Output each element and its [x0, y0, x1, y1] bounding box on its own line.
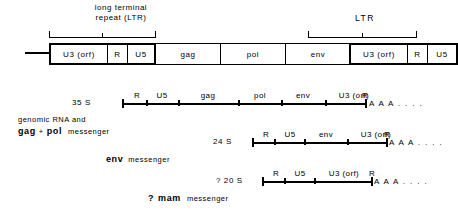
right-ltr-bracket-caption: LTR	[305, 13, 425, 23]
provirus-segment-label: U5	[436, 50, 447, 59]
transcript-35s-segment-gag: gag	[180, 91, 236, 101]
provirus-segment-env: env	[286, 43, 350, 65]
transcript-24s-polya-tail: A A A . . . .	[389, 138, 443, 147]
transcript-24s-description: env messenger	[106, 154, 170, 165]
gene-name-pol: pol	[47, 126, 62, 136]
provirus-segment-label: R	[414, 50, 420, 59]
transcript-35s-segment-pol: pol	[240, 91, 280, 101]
transcript-20s-segment-r-left: R	[267, 169, 285, 179]
transcript-20s-polya-tail: A A A . . . .	[374, 177, 428, 186]
transcript-20s-description: ? mam messenger	[148, 193, 229, 204]
provirus-segment-label: U3 (orf)	[63, 50, 95, 59]
messenger-word: messenger	[187, 194, 229, 204]
transcript-24s-svalue: 24 S	[213, 137, 232, 146]
transcript-20s-segment-u5: U5	[286, 169, 314, 179]
left-ltr-bracket	[49, 31, 156, 38]
gene-name-gag: gag	[18, 126, 36, 136]
transcript-35s-line-group: R U5 gag pol env U3 (orf) R	[122, 92, 372, 110]
provirus-segment-u5-right: U5	[428, 43, 456, 65]
transcript-35s-description-line1: genomic RNA and	[18, 115, 86, 125]
provirus-map: U3 (orf) R U5 gag pol env U3 (orf) R	[49, 43, 398, 65]
messenger-word: messenger	[68, 127, 110, 137]
provirus-segment-r-right: R	[408, 43, 427, 65]
provirus-segment-u5-left: U5	[128, 43, 154, 65]
provirus-segment-label: env	[311, 50, 326, 59]
left-flanking-dna-line	[25, 52, 50, 54]
transcript-35s-segment-u5: U5	[148, 91, 176, 101]
gene-name-env: env	[106, 154, 123, 164]
transcript-24s-segment-u5: U5	[276, 130, 304, 140]
provirus-segment-u3-orf-left: U3 (orf)	[51, 43, 107, 65]
provirus-segment-label: gag	[180, 50, 195, 59]
right-ltr-bracket	[308, 31, 417, 38]
left-ltr-bracket-caption-line1: long terminal	[56, 3, 186, 13]
transcript-35s-polya-tail: A A A . . . .	[369, 99, 423, 108]
transcript-24s-segment-r-left: R	[257, 130, 275, 140]
provirus-segment-pol: pol	[221, 43, 285, 65]
transcript-24s-segment-env: env	[306, 130, 346, 140]
transcript-35s-segment-r-left: R	[128, 91, 146, 101]
provirus-segment-r-left: R	[108, 43, 127, 65]
provirus-segment-u3-orf-right: U3 (orf)	[351, 43, 407, 65]
provirus-segment-label: U5	[135, 50, 146, 59]
provirus-segment-gag: gag	[156, 43, 220, 65]
left-ltr-bracket-caption-line2: repeat (LTR)	[56, 13, 186, 23]
messenger-word: messenger	[128, 155, 170, 165]
transcript-35s-segment-env: env	[283, 91, 323, 101]
provirus-segment-label: pol	[247, 50, 259, 59]
provirus-segment-label: R	[114, 50, 120, 59]
transcript-20s-svalue: ? 20 S	[216, 176, 243, 185]
transcript-35s-description-line2: gag + pol messenger	[18, 126, 110, 137]
provirus-segment-label: U3 (orf)	[363, 50, 395, 59]
transcript-35s-svalue: 35 S	[72, 98, 91, 107]
gene-name-mam: mam	[158, 193, 181, 203]
plus-sign: +	[39, 127, 44, 137]
question-mark-prefix: ?	[148, 193, 154, 203]
